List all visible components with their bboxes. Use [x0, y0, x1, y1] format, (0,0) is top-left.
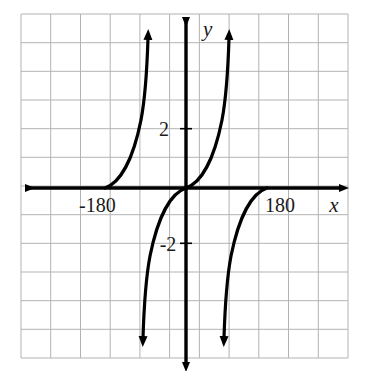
x-tick-label-180: 180	[265, 194, 295, 216]
y-axis-label: y	[201, 17, 213, 41]
y-tick-label-minus2: -2	[160, 233, 177, 255]
x-axis-label: x	[328, 193, 339, 217]
coordinate-plane-svg: -180 180 2 -2 x y	[0, 0, 367, 371]
graph-figure: -180 180 2 -2 x y	[0, 0, 367, 371]
x-tick-label-neg180: -180	[79, 194, 116, 216]
y-tick-label-2: 2	[159, 118, 169, 140]
